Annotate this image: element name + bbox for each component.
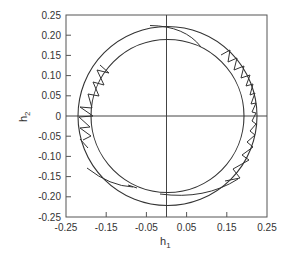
left-zigzag-tail bbox=[80, 139, 88, 148]
svg-text:-0.05: -0.05 bbox=[135, 222, 158, 233]
svg-text:0.10: 0.10 bbox=[42, 70, 62, 81]
chart-svg: 0.25 0.20 0.15 0.10 0.05 0 -0.05 -0.10 -… bbox=[0, 0, 287, 264]
svg-text:-0.15: -0.15 bbox=[38, 171, 61, 182]
svg-text:0.25: 0.25 bbox=[42, 10, 62, 21]
svg-text:0.15: 0.15 bbox=[217, 222, 237, 233]
svg-text:-0.10: -0.10 bbox=[38, 151, 61, 162]
svg-text:0.20: 0.20 bbox=[42, 30, 62, 41]
svg-text:0.25: 0.25 bbox=[257, 222, 277, 233]
y-axis-label: h2 bbox=[17, 111, 32, 122]
left-zigzag bbox=[79, 65, 109, 140]
x-axis-label: h1 bbox=[160, 235, 171, 250]
svg-text:0.05: 0.05 bbox=[177, 222, 197, 233]
svg-text:-0.25: -0.25 bbox=[38, 212, 61, 223]
svg-text:h2: h2 bbox=[17, 111, 32, 122]
svg-text:-0.20: -0.20 bbox=[38, 191, 61, 202]
x-tick-labels: -0.25 -0.15 -0.05 0.05 0.15 0.25 bbox=[55, 222, 278, 233]
svg-text:0: 0 bbox=[55, 111, 61, 122]
svg-text:0.05: 0.05 bbox=[42, 90, 62, 101]
y-tick-labels: 0.25 0.20 0.15 0.10 0.05 0 -0.05 -0.10 -… bbox=[38, 10, 61, 223]
svg-text:-0.25: -0.25 bbox=[55, 222, 78, 233]
svg-text:-0.05: -0.05 bbox=[38, 131, 61, 142]
svg-text:0.15: 0.15 bbox=[42, 50, 62, 61]
svg-text:-0.15: -0.15 bbox=[95, 222, 118, 233]
